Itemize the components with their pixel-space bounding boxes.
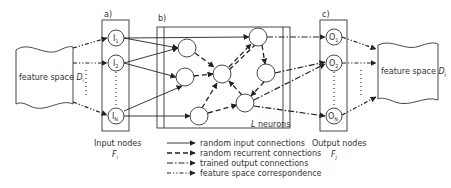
svg-text:feature space correspondence: feature space correspondence xyxy=(200,169,322,178)
output-nodes-var: Fj xyxy=(331,150,338,161)
output-node-1: O1 xyxy=(326,29,342,45)
legend-item-input: random input connections xyxy=(167,139,305,148)
input-node-1: I1 xyxy=(108,30,124,46)
legend-item-trained: trained output connections xyxy=(167,159,308,168)
neuron xyxy=(257,64,275,82)
input-node-2: I2 xyxy=(108,55,124,71)
neuron xyxy=(249,28,267,46)
input-panel: a) I1 I2 IN Input nodes Fi xyxy=(94,10,141,160)
feature-space-left-label: feature space Di xyxy=(19,73,84,83)
svg-text:random input connections: random input connections xyxy=(200,139,305,148)
output-nodes-caption: Output nodes xyxy=(312,139,366,148)
output-panel: c) O1 O2 ON Output nodes Fj xyxy=(312,10,366,161)
neuron xyxy=(190,107,208,125)
reservoir-panel: b) xyxy=(124,14,290,129)
panel-a-label: a) xyxy=(104,10,112,19)
output-node-n: ON xyxy=(326,108,342,124)
input-node-n: IN xyxy=(108,108,124,124)
neuron xyxy=(236,94,254,112)
svg-text:random recurrent connections: random recurrent connections xyxy=(200,149,321,158)
panel-b-label: b) xyxy=(158,14,166,23)
neuron xyxy=(178,39,196,57)
neuron xyxy=(176,68,194,86)
reservoir-neurons xyxy=(176,28,275,125)
reservoir-caption: L neurons xyxy=(251,120,290,129)
input-nodes-var: Fi xyxy=(112,150,119,160)
reservoir-diagram: feature space Di a) I1 I2 IN Input nodes… xyxy=(0,0,451,188)
legend-item-correspondence: feature space correspondence xyxy=(167,169,322,178)
output-node-2: O2 xyxy=(326,55,342,71)
neuron xyxy=(213,65,231,83)
feature-space-right: feature space Dj xyxy=(378,43,446,104)
feature-space-left: feature space Di xyxy=(16,47,84,109)
legend: random input connections random recurren… xyxy=(167,139,322,178)
panel-c-label: c) xyxy=(322,10,330,19)
input-nodes-caption: Input nodes xyxy=(94,139,141,148)
svg-text:trained output connections: trained output connections xyxy=(200,159,308,168)
legend-item-recurrent: random recurrent connections xyxy=(167,149,321,158)
